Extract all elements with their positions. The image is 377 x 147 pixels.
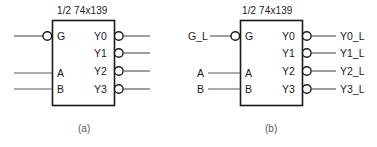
figure-b: 1/2 74x139 G_L A B — [188, 0, 377, 147]
bubble-output-y0-a — [115, 32, 124, 41]
bubble-output-y2-a — [115, 67, 124, 76]
pin-label-input-a-a: A — [57, 68, 64, 79]
schematic-canvas: 1/2 74x139 G A B — [0, 0, 377, 147]
net-label-output-y2-b: Y2_L — [340, 66, 365, 77]
pin-label-input-a-b: A — [245, 68, 252, 79]
pin-label-output-y2-b: Y2 — [282, 66, 295, 77]
figure-a: 1/2 74x139 G A B — [0, 0, 188, 147]
pin-label-input-g-b: G — [245, 31, 253, 42]
pin-label-output-y0-b: Y0 — [282, 31, 295, 42]
pin-label-output-y3-a: Y3 — [94, 84, 107, 95]
pin-label-output-y0-a: Y0 — [94, 31, 107, 42]
figure-caption-b: (b) — [265, 123, 277, 134]
bubble-output-y3-a — [115, 85, 124, 94]
net-label-input-a-b: A — [197, 68, 204, 79]
pin-label-output-y3-b: Y3 — [282, 84, 295, 95]
pin-label-input-b-a: B — [57, 84, 64, 95]
bubble-output-y1-b — [303, 49, 312, 58]
net-label-input-b-b: B — [197, 84, 204, 95]
pin-label-input-g-a: G — [57, 31, 65, 42]
pin-label-output-y1-b: Y1 — [282, 48, 295, 59]
bubble-input-g-b — [231, 32, 240, 41]
bubble-input-g-a — [43, 32, 52, 41]
figure-caption-a: (a) — [78, 123, 90, 134]
bubble-output-y3-b — [303, 85, 312, 94]
pin-label-input-b-b: B — [245, 84, 252, 95]
net-label-output-y1-b: Y1_L — [340, 48, 365, 59]
pin-label-output-y2-a: Y2 — [94, 66, 107, 77]
net-label-output-y0-b: Y0_L — [340, 31, 365, 42]
bubble-output-y1-a — [115, 49, 124, 58]
bubble-output-y2-b — [303, 67, 312, 76]
net-label-output-y3-b: Y3_L — [340, 84, 365, 95]
bubble-output-y0-b — [303, 32, 312, 41]
pin-label-output-y1-a: Y1 — [94, 48, 107, 59]
net-label-input-g-b: G_L — [188, 31, 208, 42]
